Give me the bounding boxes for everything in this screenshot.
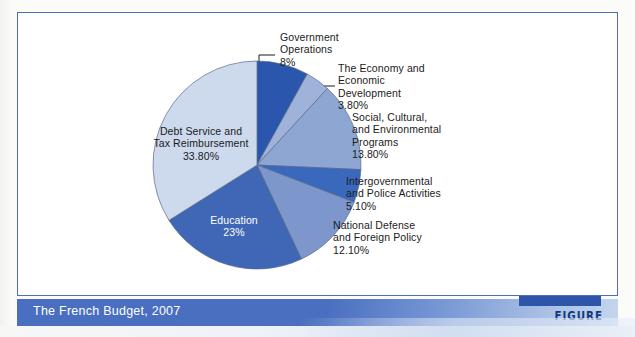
pie-label-social-cultural-environmental: Social, Cultural, and Environmental Prog… (352, 111, 507, 161)
pie-label-debt-service-tax-reimbursement: Debt Service and Tax Reimbursement 33.80… (130, 125, 272, 162)
pie-label-intergovernmental-police: Intergovernmental and Police Activities … (346, 175, 508, 212)
figure-tag-block (519, 296, 601, 306)
pie-chart: Government Operations 8% The Economy and… (18, 13, 619, 297)
pie-label-education: Education 23% (174, 214, 294, 239)
pie-label-national-defense-foreign-policy: National Defense and Foreign Policy 12.1… (333, 219, 488, 256)
figure-frame: Government Operations 8% The Economy and… (17, 12, 618, 296)
page-bottom-wash-highlight (300, 318, 635, 337)
figure-root: Government Operations 8% The Economy and… (0, 0, 635, 337)
pie-label-economy-development: The Economy and Economic Development 3.8… (338, 62, 488, 112)
figure-caption: The French Budget, 2007 (33, 304, 181, 318)
